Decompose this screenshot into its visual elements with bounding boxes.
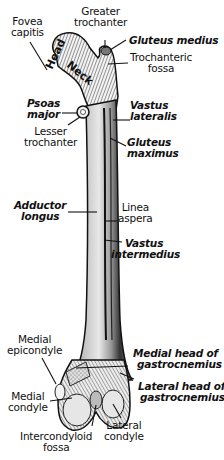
label-vastus-lateralis: Vastuslateralis [130, 100, 177, 122]
label-intercondyloid-fossa: Intercondyloidfossa [20, 431, 92, 453]
label-fovea-capitis: Foveacapitis [11, 16, 44, 38]
label-gluteus-maximus: Gluteusmaximus [127, 137, 179, 159]
label-medial-epicondyle: Medialepicondyle [7, 334, 62, 356]
label-lesser-trochanter: Lessertrochanter [24, 126, 77, 148]
label-trochanteric-fossa: Trochantericfossa [130, 52, 192, 74]
label-linea-aspera: Lineaaspera [118, 202, 153, 224]
label-adductor-longus: Adductorlongus [14, 200, 66, 222]
label-gluteus-medius: Gluteus medius [129, 35, 218, 46]
label-medial-condyle: Medialcondyle [8, 391, 48, 413]
label-greater-trochanter: Greatertrochanter [74, 6, 127, 28]
label-medial-head-gastrocnemius: Medial head ofgastrocnemius [133, 348, 222, 370]
label-lateral-condyle: Lateralcondyle [104, 420, 144, 442]
label-lateral-head-gastrocnemius: Lateral head ofgastrocnemius [138, 381, 224, 403]
label-psoas-major: Psoasmajor [27, 98, 60, 120]
femur-bone: Head Neck [43, 33, 132, 431]
label-vastus-intermedius: Vastusintermedius [111, 238, 180, 260]
